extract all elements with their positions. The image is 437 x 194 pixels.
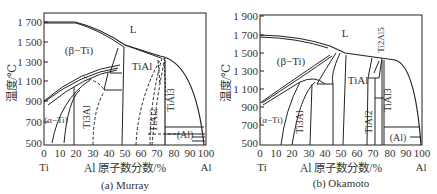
- x-tick-label: 50: [336, 147, 348, 159]
- x-tick-label: 50: [120, 147, 132, 159]
- x-tick-label: 20: [71, 147, 83, 159]
- x-tick-label: 90: [185, 147, 197, 159]
- x-tick-label: 30: [304, 147, 316, 159]
- x-tick-label: 90: [401, 147, 413, 159]
- phase-label-tial3: TiAl3: [382, 88, 393, 112]
- y-tick-label: 1 100: [233, 83, 258, 95]
- x-tick-label: 40: [104, 147, 116, 159]
- x-tick-label: 30: [88, 147, 100, 159]
- x-tick-label: 10: [55, 147, 67, 159]
- phase-label-tial2: TiAl2: [148, 108, 159, 132]
- solidus-line-2: [125, 45, 161, 58]
- y-tick-label: 1 500: [233, 47, 258, 59]
- x-tick-label: 10: [271, 147, 283, 159]
- phase-label-tial: TiAl: [132, 60, 152, 72]
- liquidus-line: [260, 35, 421, 145]
- phase-diagrams: 1 700 1 500 1 300 1 100 900 700 500 0 10…: [0, 0, 437, 194]
- phase-label-tial3: TiAl3: [165, 88, 176, 112]
- phase-label-ti3al: Ti3Al: [81, 105, 92, 129]
- phase-label-L: L: [342, 27, 349, 39]
- x-tick-label: 0: [257, 147, 263, 159]
- x-tick-label: 20: [287, 147, 299, 159]
- phase-label-L: L: [130, 23, 137, 35]
- phase-label-al: (Al): [177, 129, 194, 141]
- y-axis-label: 温度/℃: [219, 64, 232, 102]
- murray-diagram: [44, 13, 206, 145]
- x-tick-label: 100: [198, 147, 215, 159]
- phase-label-al: (Al): [390, 132, 407, 144]
- beta-transus: [44, 65, 120, 101]
- phase-label-tial: TiAl: [348, 74, 368, 86]
- y-ticks: [44, 22, 48, 122]
- caption-murray: (a) Murray: [101, 179, 149, 192]
- caption-okamoto: (b) Okamoto: [313, 177, 370, 190]
- x-axis-label: Al 原子数分数/%: [300, 161, 383, 174]
- x-tick-label: 40: [320, 147, 332, 159]
- y-tick-label: 1 500: [17, 36, 42, 48]
- phase-label-tial2: TiAl2: [363, 110, 374, 134]
- x-tick-label: 0: [41, 147, 47, 159]
- al-label: Al: [416, 161, 427, 173]
- y-tick-label: 1 700: [17, 16, 42, 28]
- phase-label-ti3al: Ti3Al: [294, 110, 305, 134]
- y-tick-label: 1 100: [17, 75, 42, 87]
- y-tick-label: 1 900: [233, 10, 258, 22]
- y-tick-label: 700: [242, 119, 259, 131]
- x-axis-label: Al 原子数分数/%: [84, 161, 167, 174]
- x-tick-label: 70: [152, 147, 164, 159]
- ti-label: Ti: [257, 161, 266, 173]
- y-tick-label: 700: [26, 116, 43, 128]
- x-tick-label: 100: [414, 147, 431, 159]
- y-axis-label: 温度/℃: [5, 64, 18, 102]
- ti-label: Ti: [39, 161, 48, 173]
- y-tick-label: 1 300: [17, 56, 42, 68]
- y-tick-label: 1 300: [233, 65, 258, 77]
- phase-label-beta: (β−Ti): [65, 44, 94, 57]
- y-tick-label: 500: [26, 137, 43, 149]
- x-tick-label: 70: [368, 147, 380, 159]
- x-tick-label: 60: [136, 147, 148, 159]
- x-tick-label: 80: [169, 147, 181, 159]
- phase-label-beta: (β−Ti): [277, 55, 306, 68]
- y-tick-label: 900: [26, 95, 43, 107]
- phase-label-alpha: (α−Ti): [44, 115, 67, 125]
- phase-label-ti2al5: Ti2Al5: [376, 27, 386, 53]
- y-tick-label: 500: [242, 137, 259, 149]
- y-tick-label: 900: [242, 101, 259, 113]
- x-tick-label: 60: [352, 147, 364, 159]
- phase-label-alpha: (α−Ti): [259, 115, 282, 125]
- plot-frame: [44, 13, 206, 145]
- x-tick-label: 80: [385, 147, 397, 159]
- y-tick-label: 1 700: [233, 29, 258, 41]
- al-label: Al: [201, 161, 212, 173]
